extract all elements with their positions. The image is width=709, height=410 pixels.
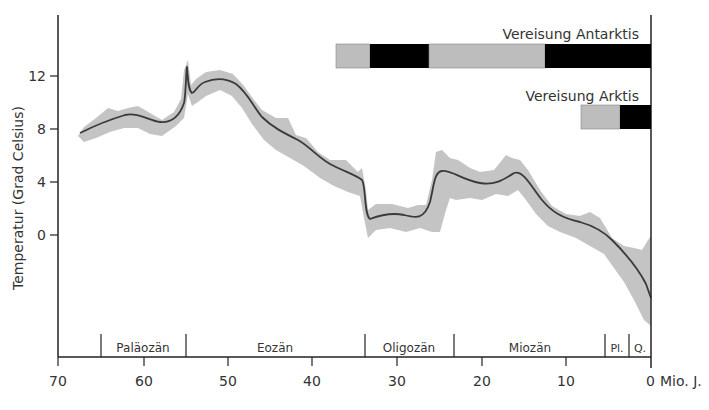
x-tick-0: 0	[646, 373, 655, 389]
y-ticks	[50, 76, 58, 235]
epoch-eocene: Eozän	[257, 341, 293, 355]
epoch-miocene: Miozän	[509, 341, 551, 355]
x-tick-40: 40	[303, 373, 321, 389]
x-tick-70: 70	[49, 373, 67, 389]
y-tick-8: 8	[37, 121, 46, 137]
epoch-quaternary: Q.	[634, 342, 646, 355]
antarctic-glaciation-label: Vereisung Antarktis	[503, 26, 640, 42]
y-axis-label: Temperatur (Grad Celsius)	[10, 106, 26, 291]
x-tick-60: 60	[135, 373, 153, 389]
y-tick-12: 12	[28, 68, 46, 84]
x-tick-30: 30	[388, 373, 406, 389]
y-tick-4: 4	[37, 174, 46, 190]
x-axis-unit: Mio. J.	[660, 373, 702, 389]
arctic-glaciation-label: Vereisung Arktis	[525, 88, 639, 104]
x-tick-50: 50	[219, 373, 237, 389]
y-tick-0: 0	[37, 227, 46, 243]
temperature-chart: 12 8 4 0 Temperatur (Grad Celsius) 70 60…	[0, 0, 709, 410]
x-ticks	[58, 357, 566, 366]
antarctic-glaciation-bar	[336, 44, 651, 68]
epoch-oligocene: Oligozän	[383, 341, 435, 355]
epoch-pliocene: Pl.	[610, 342, 623, 355]
arctic-glaciation-bar	[581, 105, 651, 129]
x-tick-10: 10	[557, 373, 575, 389]
x-tick-20: 20	[473, 373, 491, 389]
epoch-palaeocene: Paläozän	[116, 341, 169, 355]
